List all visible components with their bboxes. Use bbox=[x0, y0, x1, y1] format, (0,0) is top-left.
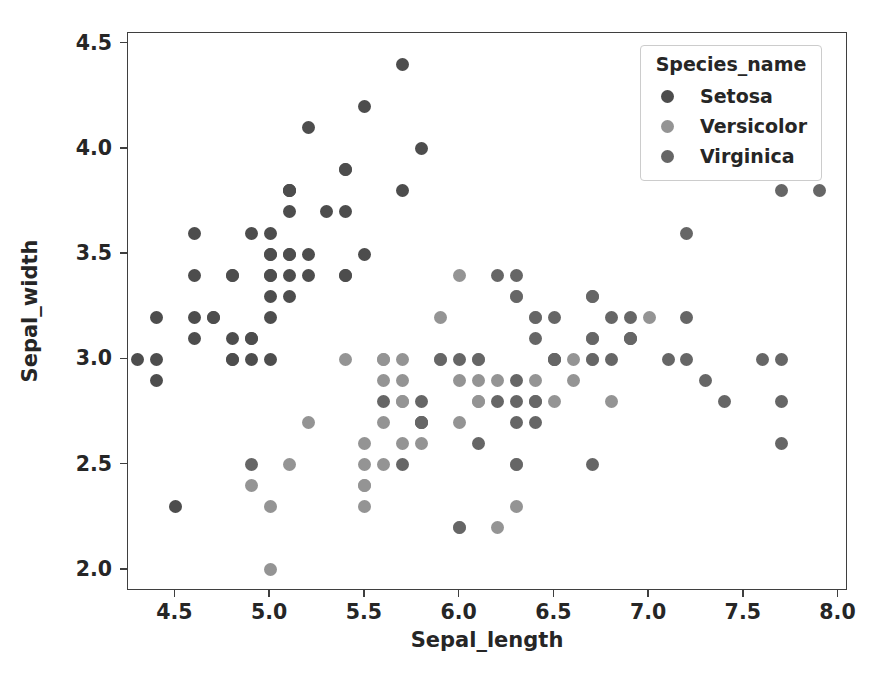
data-point bbox=[491, 395, 504, 408]
data-point bbox=[245, 332, 258, 345]
data-point bbox=[131, 353, 144, 366]
legend-title: Species_name bbox=[651, 53, 811, 75]
x-tick-label: 5.5 bbox=[346, 600, 382, 624]
x-tick-label: 7.5 bbox=[725, 600, 761, 624]
data-point bbox=[813, 184, 826, 197]
data-point bbox=[529, 395, 542, 408]
data-point bbox=[472, 395, 485, 408]
data-point bbox=[396, 458, 409, 471]
x-tick-label: 5.0 bbox=[251, 600, 287, 624]
data-point bbox=[150, 311, 163, 324]
data-point bbox=[358, 458, 371, 471]
data-point bbox=[226, 353, 239, 366]
data-point bbox=[680, 311, 693, 324]
data-point bbox=[624, 332, 637, 345]
data-point bbox=[245, 479, 258, 492]
y-tick-label: 3.0 bbox=[76, 346, 112, 370]
legend-item: Setosa bbox=[651, 81, 811, 111]
data-point bbox=[510, 374, 523, 387]
data-point bbox=[377, 458, 390, 471]
data-point bbox=[605, 311, 618, 324]
x-tick bbox=[742, 590, 744, 597]
data-point bbox=[245, 227, 258, 240]
data-point bbox=[586, 458, 599, 471]
data-point bbox=[339, 163, 352, 176]
data-point bbox=[699, 374, 712, 387]
data-point bbox=[605, 395, 618, 408]
y-tick-label: 4.5 bbox=[76, 31, 112, 55]
data-point bbox=[529, 374, 542, 387]
data-point bbox=[320, 205, 333, 218]
data-point bbox=[510, 416, 523, 429]
data-point bbox=[586, 290, 599, 303]
data-point bbox=[434, 311, 447, 324]
data-point bbox=[510, 290, 523, 303]
data-point bbox=[510, 500, 523, 513]
legend-marker-icon bbox=[661, 120, 674, 133]
x-tick-label: 6.0 bbox=[440, 600, 476, 624]
data-point bbox=[358, 248, 371, 261]
data-point bbox=[283, 248, 296, 261]
data-point bbox=[775, 353, 788, 366]
data-point bbox=[188, 311, 201, 324]
data-point bbox=[283, 184, 296, 197]
data-point bbox=[756, 353, 769, 366]
legend-entries: SetosaVersicolorVirginica bbox=[651, 81, 811, 171]
x-tick bbox=[174, 590, 176, 597]
data-point bbox=[718, 395, 731, 408]
data-point bbox=[283, 269, 296, 282]
y-tick bbox=[120, 42, 127, 44]
legend-item-label: Versicolor bbox=[700, 115, 807, 137]
data-point bbox=[491, 521, 504, 534]
data-point bbox=[377, 395, 390, 408]
data-point bbox=[529, 332, 542, 345]
data-point bbox=[302, 248, 315, 261]
figure-canvas: 4.55.05.56.06.57.07.58.02.02.53.03.54.04… bbox=[0, 0, 875, 682]
y-tick bbox=[120, 358, 127, 360]
data-point bbox=[245, 458, 258, 471]
data-point bbox=[264, 248, 277, 261]
data-point bbox=[358, 437, 371, 450]
x-axis-label: Sepal_length bbox=[411, 628, 564, 652]
data-point bbox=[491, 269, 504, 282]
x-tick-label: 7.0 bbox=[630, 600, 666, 624]
y-tick-label: 4.0 bbox=[76, 136, 112, 160]
data-point bbox=[680, 227, 693, 240]
data-point bbox=[188, 332, 201, 345]
data-point bbox=[396, 353, 409, 366]
data-point bbox=[358, 500, 371, 513]
data-point bbox=[264, 563, 277, 576]
data-point bbox=[283, 458, 296, 471]
data-point bbox=[453, 374, 466, 387]
data-point bbox=[264, 290, 277, 303]
data-point bbox=[415, 395, 428, 408]
y-tick bbox=[120, 147, 127, 149]
data-point bbox=[302, 269, 315, 282]
data-point bbox=[264, 269, 277, 282]
data-point bbox=[472, 437, 485, 450]
data-point bbox=[302, 121, 315, 134]
legend-item-label: Setosa bbox=[700, 85, 773, 107]
data-point bbox=[283, 205, 296, 218]
data-point bbox=[188, 269, 201, 282]
x-tick bbox=[837, 590, 839, 597]
y-tick bbox=[120, 568, 127, 570]
data-point bbox=[339, 353, 352, 366]
data-point bbox=[434, 353, 447, 366]
data-point bbox=[415, 142, 428, 155]
data-point bbox=[396, 58, 409, 71]
data-point bbox=[245, 353, 258, 366]
data-point bbox=[169, 500, 182, 513]
x-tick-label: 4.5 bbox=[156, 600, 192, 624]
x-tick bbox=[553, 590, 555, 597]
y-tick bbox=[120, 252, 127, 254]
legend-item: Versicolor bbox=[651, 111, 811, 141]
data-point bbox=[586, 332, 599, 345]
legend: Species_name SetosaVersicolorVirginica bbox=[640, 45, 822, 181]
y-tick-label: 3.5 bbox=[76, 241, 112, 265]
data-point bbox=[605, 353, 618, 366]
data-point bbox=[567, 353, 580, 366]
legend-marker-icon bbox=[661, 90, 674, 103]
data-point bbox=[396, 437, 409, 450]
y-tick-label: 2.0 bbox=[76, 557, 112, 581]
